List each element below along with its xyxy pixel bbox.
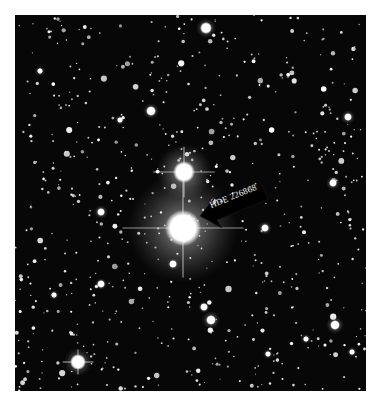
star-field xyxy=(15,15,366,391)
bright-stars xyxy=(35,18,357,376)
star-field-photo: HDE 226868 xyxy=(15,15,366,391)
